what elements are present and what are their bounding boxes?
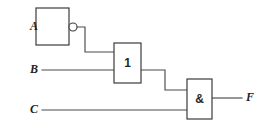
inverter-body bbox=[36, 8, 69, 45]
input-label-c: C bbox=[30, 102, 39, 116]
inverter-output-bubble-icon bbox=[69, 23, 77, 31]
and-gate-label: & bbox=[195, 92, 204, 106]
wire-or-to-and bbox=[141, 70, 187, 90]
gate-inverter[interactable] bbox=[36, 8, 69, 45]
logic-circuit-diagram: 1 & A B C F bbox=[0, 0, 264, 132]
gate-layer: 1 & bbox=[36, 8, 212, 119]
bubble-layer bbox=[69, 23, 77, 31]
gate-and[interactable]: & bbox=[187, 79, 212, 119]
input-label-a: A bbox=[29, 19, 38, 33]
input-label-b: B bbox=[29, 62, 38, 76]
gate-or[interactable]: 1 bbox=[114, 43, 141, 83]
or-gate-label: 1 bbox=[124, 56, 131, 70]
output-label-f: F bbox=[245, 90, 254, 104]
circuit-canvas: 1 & A B C F bbox=[0, 0, 264, 132]
wire-inverter-to-or bbox=[77, 27, 114, 52]
